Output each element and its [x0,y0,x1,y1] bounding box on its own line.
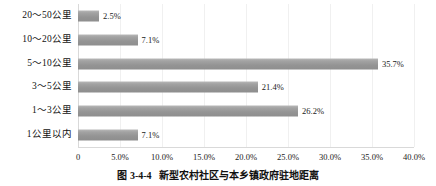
category-label: 1～3公里 [32,106,72,116]
x-tick-label: 40.0% [403,150,425,164]
category-label: 20～50公里 [22,11,72,21]
value-label: 7.1% [142,131,160,140]
x-axis-line [78,147,414,148]
figure-caption-text: 新型农村社区与本乡镇政府驻地距离 [159,170,319,181]
category-label: 3～5公里 [32,83,72,93]
x-tick-label: 10.0% [151,150,173,164]
bar[interactable] [78,106,298,117]
x-tick-label: 15.0% [193,150,215,164]
category-label: 5～10公里 [27,59,72,69]
bar-chart: 20～50公里 2.5% 10～20公里 7.1% 5～10公里 35.7% 3… [0,0,436,168]
figure-container: 20～50公里 2.5% 10～20公里 7.1% 5～10公里 35.7% 3… [0,0,436,186]
bar[interactable] [78,58,378,69]
value-label: 26.2% [302,107,324,116]
bar[interactable] [78,34,138,45]
bar-row: 5～10公里 35.7% [78,52,414,76]
bar[interactable] [78,10,99,21]
bar-row: 20～50公里 2.5% [78,4,414,28]
plot-area: 20～50公里 2.5% 10～20公里 7.1% 5～10公里 35.7% 3… [78,4,414,147]
bar-row: 1～3公里 26.2% [78,99,414,123]
bar-row: 10～20公里 7.1% [78,28,414,52]
x-tick-label: 5.0% [111,150,129,164]
value-label: 35.7% [382,59,404,68]
bar[interactable] [78,82,258,93]
value-label: 21.4% [262,83,284,92]
gridline-40 [414,4,415,147]
figure-caption: 图 3-4-4新型农村社区与本乡镇政府驻地距离 [0,169,436,183]
x-tick-label: 20.0% [235,150,257,164]
value-label: 7.1% [142,35,160,44]
x-tick-label: 0 [76,150,80,164]
x-tick-label: 30.0% [319,150,341,164]
x-axis-tick-labels: 0 5.0% 10.0% 15.0% 20.0% 25.0% 30.0% 35.… [78,150,414,164]
bar[interactable] [78,130,138,141]
x-tick-label: 35.0% [361,150,383,164]
category-label: 10～20公里 [22,35,72,45]
x-tick-label: 25.0% [277,150,299,164]
category-label: 1公里以内 [27,130,72,140]
bar-row: 1公里以内 7.1% [78,123,414,147]
bar-row: 3～5公里 21.4% [78,76,414,100]
figure-number: 图 3-4-4 [117,170,151,181]
value-label: 2.5% [103,12,121,21]
